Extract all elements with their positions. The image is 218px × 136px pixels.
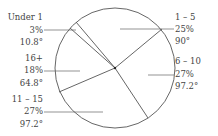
slice-labels: Under 13%10.8°1 – 525%90°6 – 1027%97.2°1… [8, 12, 201, 129]
slice-percent: 27% [24, 106, 43, 116]
pie-center [114, 67, 116, 69]
slice-boundary-11to15-16plus [59, 68, 115, 92]
slice-degrees: 64.8° [20, 78, 43, 88]
slice-degrees: 97.2° [175, 81, 198, 91]
slice-degrees: 10.8° [20, 37, 43, 47]
slice-name: 16+ [25, 53, 43, 63]
slice-boundary-6to10-11to15 [115, 68, 148, 118]
slice-name: Under 1 [8, 12, 43, 22]
slice-percent: 3% [30, 25, 44, 35]
slice-name: 11 – 15 [12, 94, 43, 104]
slice-degrees: 97.2° [20, 119, 43, 129]
pie-layer [55, 8, 175, 128]
slice-boundary-under1-1to5 [76, 22, 115, 68]
slice-percent: 25% [175, 24, 194, 34]
slice-percent: 27% [175, 69, 194, 79]
slice-boundary-16plus-under1 [70, 28, 115, 68]
slice-name: 6 – 10 [175, 56, 201, 66]
pie-chart: Under 13%10.8°1 – 525%90°6 – 1027%97.2°1… [0, 0, 218, 136]
slice-boundary-1to5-6to10 [115, 29, 162, 68]
slice-degrees: 90° [175, 36, 190, 46]
slice-name: 1 – 5 [175, 12, 195, 22]
slice-percent: 18% [24, 65, 43, 75]
